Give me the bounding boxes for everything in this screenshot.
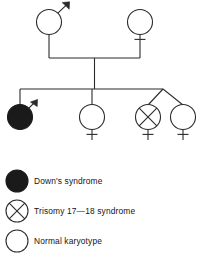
twin-line-right bbox=[163, 89, 183, 105]
legend-symbol-wrapper bbox=[0, 228, 34, 254]
individual-child-2 bbox=[80, 89, 105, 140]
legend-symbol-wrapper bbox=[0, 198, 34, 224]
legend-item-trisomy: Trisomy 17—18 syndrome bbox=[0, 196, 200, 226]
child-1-circle-filled bbox=[8, 105, 33, 130]
legend-item-normal-karyotype: Normal karyotype bbox=[0, 226, 200, 256]
individual-mother bbox=[128, 10, 153, 59]
legend-item-downs-syndrome: Down's syndrome bbox=[0, 166, 200, 196]
pedigree-diagram bbox=[0, 0, 200, 160]
individual-father bbox=[37, 2, 70, 58]
child-2-circle bbox=[80, 105, 105, 130]
father-circle bbox=[37, 10, 62, 35]
individual-child-3-twin-a bbox=[136, 105, 161, 141]
mother-circle bbox=[128, 10, 153, 35]
individual-child-4-twin-b bbox=[171, 105, 196, 141]
open-circle-icon bbox=[4, 228, 30, 254]
legend-label-downs-syndrome: Down's syndrome bbox=[34, 176, 103, 186]
twin-connector bbox=[148, 89, 183, 105]
filled-circle-icon bbox=[4, 168, 30, 194]
legend-label-trisomy: Trisomy 17—18 syndrome bbox=[34, 206, 135, 216]
legend: Down's syndrome Trisomy 17—18 syndrome N… bbox=[0, 160, 200, 265]
pedigree-figure: Down's syndrome Trisomy 17—18 syndrome N… bbox=[0, 0, 200, 265]
twin-line-left bbox=[148, 89, 163, 105]
individual-child-1 bbox=[8, 89, 38, 130]
legend-symbol-wrapper bbox=[0, 168, 34, 194]
child-4-circle bbox=[171, 105, 196, 130]
circle-with-cross-icon bbox=[4, 198, 30, 224]
legend-label-normal-karyotype: Normal karyotype bbox=[34, 236, 102, 246]
